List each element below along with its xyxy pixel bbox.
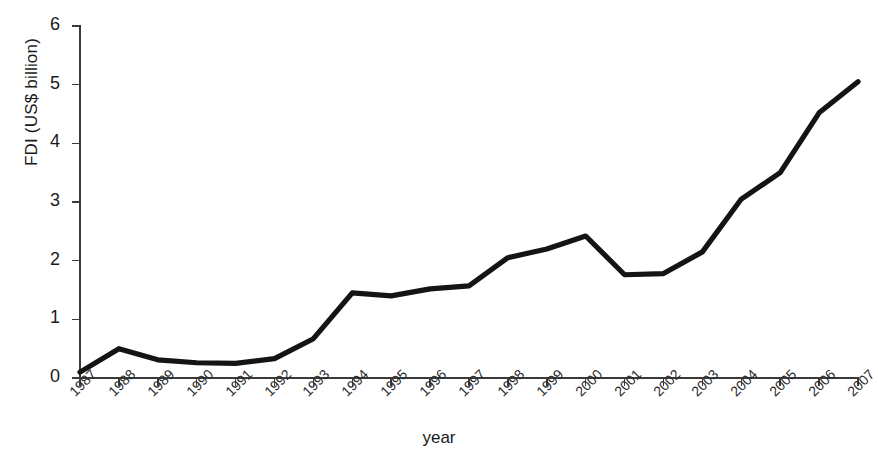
x-axis-label: year (0, 428, 878, 448)
fdi-line-chart: FDI (US$ billion) 0123456 19871988198919… (0, 0, 878, 456)
series-line-svg (0, 0, 878, 456)
fdi-series-line (80, 82, 858, 372)
